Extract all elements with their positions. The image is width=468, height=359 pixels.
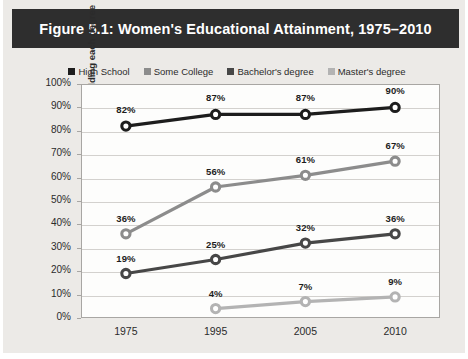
y-tick-label: 30% [29,241,71,252]
data-point-label: 87% [193,92,239,103]
legend-swatch-icon [328,68,335,75]
figure-title-bar: Figure 5.1: Women's Educational Attainme… [12,9,459,48]
y-tick-label: 0% [29,311,71,322]
y-tick-label: 90% [29,100,71,111]
data-point-label: 36% [372,213,418,224]
y-tick-label: 20% [29,264,71,275]
x-tick-label: 2005 [275,325,335,337]
data-point-label: 87% [282,92,328,103]
y-tick-label: 80% [29,124,71,135]
legend-item-label: Bachelor's degree [237,66,313,77]
y-tick-label: 10% [29,288,71,299]
data-point-label: 32% [282,222,328,233]
legend-item-some-college[interactable]: Some College [144,66,214,77]
y-tick-label: 100% [29,77,71,88]
data-point-label: 25% [193,239,239,250]
y-tick-label: 70% [29,147,71,158]
gridline [82,132,439,133]
data-point-label: 19% [103,253,149,264]
y-tick-label: 60% [29,171,71,182]
data-point-label: 82% [103,104,149,115]
gridline [82,202,439,203]
y-tick-mark [77,178,81,179]
gridline [82,225,439,226]
y-tick-mark [77,201,81,202]
y-tick-mark [77,107,81,108]
legend-item-high-school[interactable]: High School [68,66,129,77]
data-point-label: 67% [372,140,418,151]
legend-item-bachelor-s-degree[interactable]: Bachelor's degree [227,66,313,77]
legend-item-master-s-degree[interactable]: Master's degree [328,66,406,77]
data-point-label: 61% [282,154,328,165]
figure-title: Figure 5.1: Women's Educational Attainme… [39,21,431,37]
gridline [82,296,439,297]
data-point-label: 7% [282,281,328,292]
legend-swatch-icon [68,68,75,75]
data-point-label: 90% [372,85,418,96]
data-point-label: 36% [103,213,149,224]
y-tick-mark [77,271,81,272]
legend-item-label: Master's degree [338,66,406,77]
figure-container: Figure 5.1: Women's Educational Attainme… [0,0,468,359]
gridline [82,249,439,250]
gridline [82,179,439,180]
x-tick-label: 1975 [96,325,156,337]
legend-swatch-icon [227,68,234,75]
data-point-label: 4% [193,288,239,299]
chart-legend: High SchoolSome CollegeBachelor's degree… [3,64,468,79]
y-tick-mark [77,84,81,85]
y-tick-mark [77,248,81,249]
y-tick-label: 50% [29,194,71,205]
y-tick-label: 40% [29,217,71,228]
data-point-label: 56% [193,166,239,177]
x-tick-label: 2010 [365,325,425,337]
gridline [82,272,439,273]
y-tick-mark [77,131,81,132]
data-point-label: 9% [372,276,418,287]
y-tick-mark [77,224,81,225]
gridline [82,155,439,156]
x-tick-label: 1995 [186,325,246,337]
y-tick-mark [77,295,81,296]
legend-swatch-icon [144,68,151,75]
y-tick-mark [77,154,81,155]
legend-item-label: Some College [154,66,214,77]
y-tick-mark [77,318,81,319]
